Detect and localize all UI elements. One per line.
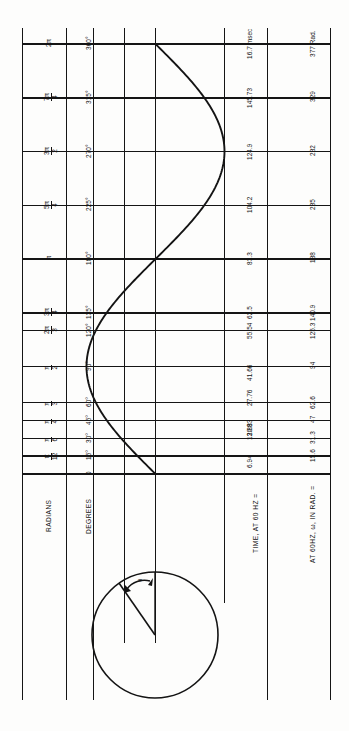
sine-curve-and-phasor-layer: [0, 0, 349, 731]
phasor-arc-arrow-end: [148, 578, 153, 586]
sine-curve: [87, 44, 225, 474]
sine-wave-reference-chart: π12π6π4π3π22π33π4π5π43π27π42π015°30°45°6…: [0, 0, 349, 731]
phasor-angle-symbol-label: θ: [137, 579, 143, 582]
